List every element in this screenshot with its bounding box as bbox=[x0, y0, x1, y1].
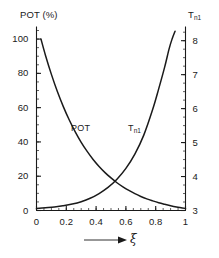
left-axis-title: POT (%) bbox=[20, 10, 57, 20]
left-tick-label: 20 bbox=[0, 171, 29, 181]
x-tick-label: 0 bbox=[23, 217, 51, 227]
curve-label-tn1-text: T bbox=[128, 123, 134, 133]
left-tick-label: 0 bbox=[0, 206, 29, 216]
curve-label-pot: POT bbox=[71, 124, 90, 133]
chart-figure: POT (%) Tn1 ξ POT Tn1 020406080100345678… bbox=[0, 0, 219, 258]
right-tick-label: 5 bbox=[193, 138, 198, 148]
curve-t-n1 bbox=[37, 31, 176, 208]
left-tick-label: 40 bbox=[0, 137, 29, 147]
right-axis-title: Tn1 bbox=[188, 10, 201, 20]
arrow-right-icon bbox=[84, 237, 127, 244]
x-tick-label: 0.6 bbox=[112, 217, 140, 227]
right-tick-label: 8 bbox=[193, 36, 198, 46]
right-tick-label: 4 bbox=[193, 172, 198, 182]
curve-label-pot-text: POT bbox=[71, 123, 90, 133]
data-curves bbox=[37, 31, 186, 208]
axes-lines bbox=[37, 27, 186, 211]
x-tick-label: 0.2 bbox=[52, 217, 80, 227]
x-tick-label: 0.8 bbox=[142, 217, 170, 227]
left-tick-label: 100 bbox=[0, 34, 29, 44]
right-tick-label: 7 bbox=[193, 70, 198, 80]
left-tick-label: 80 bbox=[0, 68, 29, 78]
curve-label-tn1: Tn1 bbox=[128, 124, 141, 133]
curve-label-tn1-subscript: n1 bbox=[134, 127, 141, 134]
x-axis-title: ξ bbox=[130, 233, 137, 245]
right-axis-title-subscript: n1 bbox=[194, 14, 201, 21]
tick-marks bbox=[37, 31, 186, 211]
x-tick-label: 1 bbox=[172, 217, 200, 227]
left-tick-label: 60 bbox=[0, 103, 29, 113]
right-tick-label: 6 bbox=[193, 104, 198, 114]
x-tick-label: 0.4 bbox=[82, 217, 110, 227]
right-tick-label: 3 bbox=[193, 206, 198, 216]
